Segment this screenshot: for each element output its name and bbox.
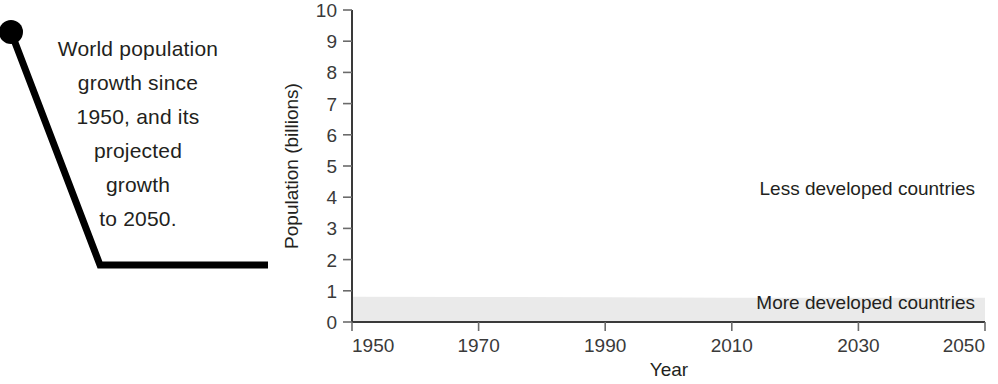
y-axis-ticks: 012345678910 <box>316 0 352 333</box>
x-tick-label: 2050 <box>943 335 985 356</box>
y-tick-label: 0 <box>326 312 337 333</box>
chart-canvas: 012345678910 195019701990201020302050 Po… <box>280 0 998 384</box>
y-tick-label: 6 <box>326 125 337 146</box>
caption-line: growth <box>38 168 238 202</box>
y-tick-label: 8 <box>326 62 337 83</box>
series-label-more-developed: More developed countries <box>756 292 975 313</box>
x-tick-label: 1990 <box>584 335 626 356</box>
caption-line: 1950, and its <box>38 100 238 134</box>
x-tick-label: 2030 <box>837 335 879 356</box>
caption-block: World population growth since 1950, and … <box>0 0 280 300</box>
y-tick-label: 1 <box>326 281 337 302</box>
chart-axes <box>352 10 985 322</box>
x-axis-title: Year <box>650 359 689 380</box>
population-area-chart: 012345678910 195019701990201020302050 Po… <box>280 0 998 384</box>
caption-line: growth since <box>38 66 238 100</box>
x-tick-label: 1950 <box>352 335 394 356</box>
y-axis-title: Population (billions) <box>281 83 302 249</box>
x-tick-label: 1970 <box>457 335 499 356</box>
y-tick-label: 3 <box>326 218 337 239</box>
caption-line: projected <box>38 134 238 168</box>
y-tick-label: 10 <box>316 0 337 21</box>
y-tick-label: 2 <box>326 250 337 271</box>
x-tick-label: 2010 <box>711 335 753 356</box>
y-tick-label: 5 <box>326 156 337 177</box>
y-tick-label: 7 <box>326 94 337 115</box>
x-axis-ticks: 195019701990201020302050 <box>352 322 985 356</box>
y-tick-label: 4 <box>326 187 337 208</box>
population-growth-figure: World population growth since 1950, and … <box>0 0 998 384</box>
caption-line: World population <box>38 32 238 66</box>
caption-text: World population growth since 1950, and … <box>38 32 238 236</box>
series-label-less-developed: Less developed countries <box>760 178 975 199</box>
caption-line: to 2050. <box>38 202 238 236</box>
y-tick-label: 9 <box>326 31 337 52</box>
